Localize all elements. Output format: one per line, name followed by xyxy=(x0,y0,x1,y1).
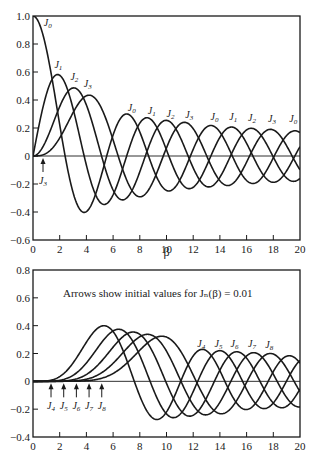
arrow-head-icon xyxy=(74,383,79,389)
curve-label-j3: J3 xyxy=(268,113,276,126)
curve-j1 xyxy=(33,75,300,205)
curve-label-j1: J1 xyxy=(54,59,62,72)
y-tick-label: −0.6 xyxy=(10,234,30,246)
y-tick-label: 0.6 xyxy=(16,66,30,78)
y-tick-label: 0.2 xyxy=(16,122,30,134)
y-tick-label: 0.4 xyxy=(16,320,30,332)
curve-label-j5: J5 xyxy=(215,338,223,351)
curve-label-j0: J0 xyxy=(211,111,219,124)
curve-label-j3: J3 xyxy=(84,78,92,91)
top-plot-bessel-j0-j3: 024681012141618201.00.80.60.40.20−0.2−0.… xyxy=(10,10,306,259)
y-tick-label: 0 xyxy=(25,375,31,387)
arrow-label-j8: J8 xyxy=(98,400,106,413)
x-tick-label: 6 xyxy=(110,243,116,255)
curve-j2 xyxy=(33,88,300,200)
x-tick-label: 4 xyxy=(84,440,90,452)
curve-label-j6: J6 xyxy=(231,338,239,351)
plot-frame xyxy=(33,16,300,240)
y-tick-label: 0.4 xyxy=(16,94,30,106)
arrow-head-icon xyxy=(41,158,46,164)
x-tick-label: 8 xyxy=(137,440,143,452)
curve-label-j3: J3 xyxy=(185,109,193,122)
arrow-label-j5: J5 xyxy=(60,400,68,413)
x-tick-label: 12 xyxy=(188,243,199,255)
x-tick-label: 16 xyxy=(241,440,253,452)
curve-label-j2: J2 xyxy=(248,112,256,125)
curve-label-j1: J1 xyxy=(148,105,156,118)
curve-label-j1: J1 xyxy=(229,111,237,124)
curve-label-j2: J2 xyxy=(70,71,78,84)
arrow-label-j7: J7 xyxy=(85,400,93,413)
x-axis-title: β xyxy=(163,245,169,259)
arrow-label-j6: J6 xyxy=(72,400,80,413)
arrow-head-icon xyxy=(61,383,66,389)
arrow-label-j4: J4 xyxy=(47,400,55,413)
x-tick-label: 0 xyxy=(30,440,36,452)
x-tick-label: 18 xyxy=(268,243,280,255)
x-tick-label: 12 xyxy=(188,440,199,452)
y-tick-label: 0.8 xyxy=(16,264,30,276)
x-tick-label: 20 xyxy=(295,440,307,452)
x-tick-label: 14 xyxy=(214,440,226,452)
curve-label-j8: J8 xyxy=(265,339,273,352)
x-tick-label: 0 xyxy=(30,243,36,255)
arrow-head-icon xyxy=(49,383,54,389)
arrow-head-icon xyxy=(99,383,104,389)
bottom-plot-bessel-j4-j8: 024681012141618200.80.60.40.20−0.2−0.4J4… xyxy=(10,264,306,452)
y-tick-label: 0.8 xyxy=(16,38,30,50)
curve-label-j2: J2 xyxy=(167,108,175,121)
x-tick-label: 2 xyxy=(57,243,63,255)
curve-label-j0: J0 xyxy=(44,17,52,30)
arrow-head-icon xyxy=(87,383,92,389)
curve-label-j4: J4 xyxy=(197,338,205,351)
x-tick-label: 4 xyxy=(84,243,90,255)
y-tick-label: −0.2 xyxy=(10,178,30,190)
y-tick-label: −0.2 xyxy=(10,403,30,415)
x-tick-label: 16 xyxy=(241,243,253,255)
x-tick-label: 8 xyxy=(137,243,143,255)
x-tick-label: 10 xyxy=(161,440,173,452)
y-tick-label: −0.4 xyxy=(10,431,30,443)
y-tick-label: 0 xyxy=(25,150,31,162)
x-tick-label: 20 xyxy=(295,243,307,255)
curve-label-j7: J7 xyxy=(248,338,256,351)
x-tick-label: 6 xyxy=(110,440,116,452)
bessel-function-figure: 024681012141618201.00.80.60.40.20−0.2−0.… xyxy=(0,0,315,464)
x-tick-label: 18 xyxy=(268,440,280,452)
x-tick-label: 14 xyxy=(214,243,226,255)
y-tick-label: 0.2 xyxy=(16,348,30,360)
arrows-annotation: Arrows show initial values for Jₙ(β) = 0… xyxy=(63,287,252,300)
curve-label-j0: J0 xyxy=(289,113,297,126)
y-tick-label: 0.6 xyxy=(16,292,30,304)
x-tick-label: 2 xyxy=(57,440,63,452)
y-tick-label: −0.4 xyxy=(10,206,30,218)
y-tick-label: 1.0 xyxy=(16,10,30,22)
curve-label-j0: J0 xyxy=(128,102,136,115)
arrow-label-j3: J3 xyxy=(39,175,47,188)
